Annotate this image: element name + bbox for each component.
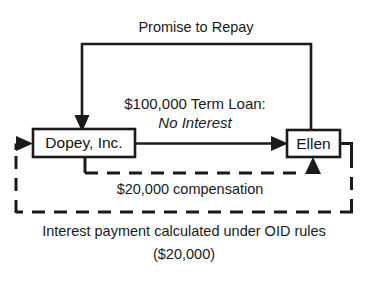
no-interest-label: No Interest xyxy=(158,115,231,130)
compensation-edge xyxy=(85,157,321,174)
term-loan-edge xyxy=(135,136,288,151)
diagram-canvas: Promise to Repay $100,000 Term Loan: No … xyxy=(0,0,367,298)
oid-edge-stub xyxy=(340,144,352,156)
term-loan-label: $100,000 Term Loan: xyxy=(124,96,266,111)
oid-caption-line2: ($20,000) xyxy=(153,247,215,262)
node-dopey-label: Dopey, Inc. xyxy=(45,134,122,152)
term-loan-edge-arrowhead-icon xyxy=(271,136,288,151)
node-ellen-label: Ellen xyxy=(296,135,330,153)
promise-to-repay-label: Promise to Repay xyxy=(138,20,253,35)
compensation-edge-arrowhead-icon xyxy=(305,157,321,174)
oid-caption-line1: Interest payment calculated under OID ru… xyxy=(42,224,326,239)
compensation-label: $20,000 compensation xyxy=(117,182,264,197)
oid-edge-arrowhead-icon xyxy=(16,136,33,151)
